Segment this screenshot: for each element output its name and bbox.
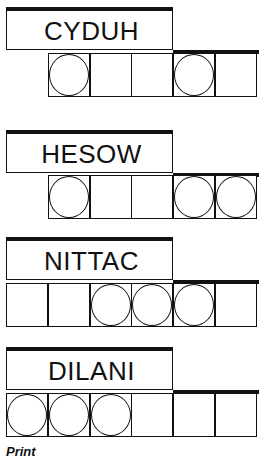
circled-letter-icon: [91, 394, 131, 436]
circled-letter-icon: [132, 284, 172, 326]
answer-cell-1[interactable]: [6, 283, 48, 327]
print-label: Print: [6, 444, 36, 456]
answer-cell-3[interactable]: [90, 283, 132, 327]
circled-letter-icon: [174, 54, 214, 96]
answer-cell-6[interactable]: [215, 393, 257, 437]
answer-cell-1[interactable]: [6, 393, 48, 437]
answer-cell-2[interactable]: [90, 175, 132, 219]
scrambled-word-box: CYDUH: [6, 7, 173, 50]
answer-cell-5[interactable]: [215, 53, 257, 97]
circled-letter-icon: [216, 176, 256, 218]
circled-letter-icon: [174, 176, 214, 218]
scrambled-word: NITTAC: [40, 246, 139, 277]
answer-cell-4[interactable]: [131, 283, 173, 327]
circled-letter-icon: [49, 176, 89, 218]
scrambled-word-box: NITTAC: [6, 237, 173, 280]
answer-cell-2[interactable]: [90, 53, 132, 97]
scrambled-word-box: HESOW: [6, 130, 173, 173]
answer-cell-2[interactable]: [48, 283, 90, 327]
scrambled-word-box: DILANI: [6, 347, 173, 390]
answer-cell-4[interactable]: [173, 53, 215, 97]
scrambled-word: HESOW: [37, 139, 142, 170]
circled-letter-icon: [174, 284, 214, 326]
circled-letter-icon: [49, 54, 89, 96]
answer-cell-5[interactable]: [215, 175, 257, 219]
circled-letter-icon: [49, 394, 89, 436]
answer-cell-1[interactable]: [48, 53, 90, 97]
jumble-puzzle-3: NITTAC: [0, 237, 270, 337]
answer-cell-2[interactable]: [48, 393, 90, 437]
answer-cell-3[interactable]: [90, 393, 132, 437]
circled-letter-icon: [91, 284, 131, 326]
answer-cell-4[interactable]: [131, 393, 173, 437]
jumble-puzzle-4: DILANI: [0, 347, 270, 447]
answer-cell-5[interactable]: [173, 393, 215, 437]
scrambled-word: DILANI: [44, 356, 135, 387]
scrambled-word: CYDUH: [40, 16, 139, 47]
answer-cell-6[interactable]: [215, 283, 257, 327]
answer-cell-5[interactable]: [173, 283, 215, 327]
answer-cell-1[interactable]: [48, 175, 90, 219]
jumble-puzzle-1: CYDUH: [0, 7, 270, 107]
answer-cell-4[interactable]: [173, 175, 215, 219]
circled-letter-icon: [7, 394, 47, 436]
answer-cell-3[interactable]: [131, 53, 173, 97]
answer-cell-3[interactable]: [131, 175, 173, 219]
jumble-puzzle-2: HESOW: [0, 130, 270, 230]
